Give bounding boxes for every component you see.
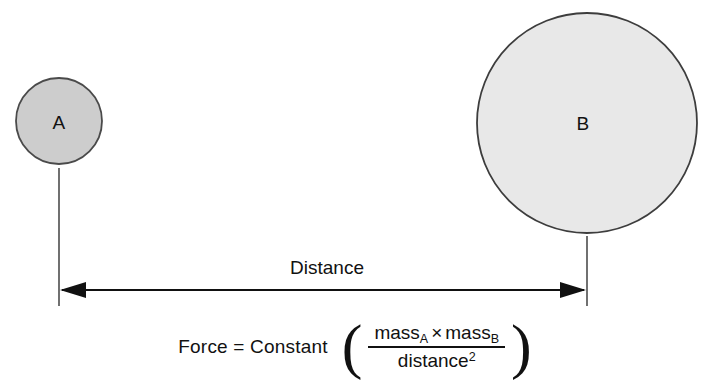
- mass-body-b-label: B: [560, 114, 606, 133]
- denominator-exponent: 2: [469, 350, 476, 364]
- distance-arrowhead-left: [60, 282, 86, 298]
- formula-fraction: massA×massB distance2: [368, 322, 505, 372]
- formula-denominator: distance2: [392, 348, 482, 372]
- diagram-canvas: A B Distance Force = Constant ( massA×ma…: [0, 0, 710, 390]
- distance-label: Distance: [252, 258, 402, 277]
- formula-numerator: massA×massB: [368, 322, 505, 346]
- mass-body-a-label: A: [38, 113, 80, 132]
- gravitation-formula: Force = Constant ( massA×massB distance2…: [0, 322, 710, 372]
- numerator-term-two-subscript: B: [491, 332, 499, 346]
- numerator-operator: ×: [431, 322, 442, 343]
- numerator-term-two: mass: [445, 322, 490, 343]
- formula-close-paren: ): [511, 322, 532, 370]
- formula-left-hand-side: Force = Constant: [178, 336, 327, 358]
- denominator-term: distance: [398, 350, 469, 371]
- formula-open-paren: (: [342, 322, 363, 370]
- numerator-term-one: mass: [374, 322, 419, 343]
- distance-arrowhead-right: [560, 282, 586, 298]
- numerator-term-one-subscript: A: [420, 332, 428, 346]
